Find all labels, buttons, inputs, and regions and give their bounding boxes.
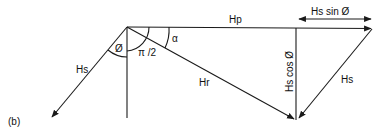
hs-right-vector [299, 29, 372, 118]
hr-vector [127, 27, 294, 119]
hs-cos-label: Hs cos Ø [284, 51, 295, 92]
alpha-arc [165, 27, 169, 48]
hs-sin-label: Hs sin Ø [311, 6, 350, 17]
hs-right-label: Hs [341, 74, 353, 85]
vector-diagram: Hp Hs sin Ø Hs Hs Hr Ø π /2 α Hs cos Ø (… [0, 0, 380, 134]
hr-label: Hr [199, 77, 210, 88]
figure-label: (b) [8, 116, 20, 127]
alpha-label: α [172, 33, 178, 44]
hp-vector [127, 27, 371, 29]
hs-left-label: Hs [76, 64, 88, 75]
pi-half-label: π /2 [138, 47, 156, 58]
phi-label: Ø [115, 43, 123, 54]
hs-left-vector [52, 27, 127, 117]
hp-label: Hp [229, 14, 242, 25]
